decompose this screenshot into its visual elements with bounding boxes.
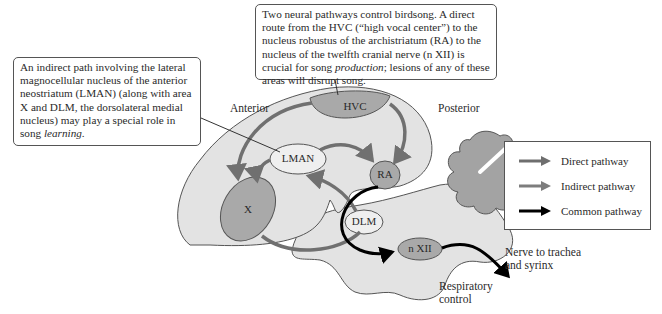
callout-left-emphasis: learning bbox=[44, 127, 82, 139]
x-label: X bbox=[238, 203, 258, 215]
hvc-label: HVC bbox=[335, 100, 375, 112]
legend-label-common: Common pathway bbox=[561, 205, 642, 217]
callout-top-emphasis: production bbox=[335, 61, 384, 73]
legend-label-indirect: Indirect pathway bbox=[561, 180, 635, 192]
dlm-label: DLM bbox=[345, 215, 383, 227]
nxii-label: n XII bbox=[400, 242, 440, 254]
anterior-label: Anterior bbox=[230, 102, 269, 115]
respiratory-label-line1: Respiratory bbox=[439, 280, 493, 293]
posterior-label: Posterior bbox=[438, 102, 480, 115]
legend-label-direct: Direct pathway bbox=[561, 155, 629, 167]
arrow-direct-icon bbox=[519, 156, 551, 166]
legend-item-common: Common pathway bbox=[519, 204, 642, 218]
lman-label: LMAN bbox=[273, 152, 323, 164]
callout-left-text-end: . bbox=[82, 127, 85, 139]
legend-item-indirect: Indirect pathway bbox=[519, 179, 635, 193]
nerve-label-line1: Nerve to trachea bbox=[505, 246, 581, 259]
callout-indirect-pathway: An indirect path involving the lateral m… bbox=[13, 57, 201, 146]
nerve-label-line2: and syrinx bbox=[505, 259, 553, 272]
respiratory-label-line2: control bbox=[439, 293, 472, 306]
arrow-indirect-icon bbox=[519, 181, 551, 191]
legend: Direct pathway Indirect pathway Common p… bbox=[504, 141, 651, 230]
legend-item-direct: Direct pathway bbox=[519, 154, 629, 168]
ra-label: RA bbox=[372, 168, 398, 180]
arrow-common-icon bbox=[519, 206, 551, 216]
callout-direct-pathway: Two neural pathways control birdsong. A … bbox=[255, 4, 497, 80]
